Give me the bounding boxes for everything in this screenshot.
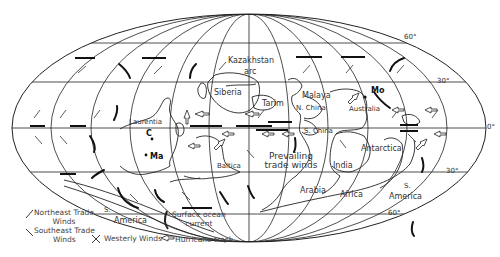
lat-label-60s: 60°	[388, 210, 400, 217]
region-india: India	[333, 162, 353, 170]
region-s-america-east-s: S.	[404, 183, 411, 190]
legend-southeast-trade: Southeast Trade Winds	[34, 227, 95, 244]
region-n-china: N. China	[296, 105, 326, 112]
prevailing-line2: trade winds	[256, 161, 326, 170]
region-tarim: Tarim	[262, 100, 284, 108]
paleogeographic-map: 60° 30° 0° 30° 60° Kazakhstan arc Siberi…	[0, 0, 500, 257]
lat-label-30s: 30°	[446, 168, 458, 175]
region-s-china: S. China	[304, 128, 333, 135]
region-africa: Africa	[340, 191, 363, 199]
legend-hurricane: Hurricane track	[175, 236, 233, 245]
region-australia: Australia	[349, 106, 380, 113]
region-laurentia: Laurentia	[129, 119, 162, 126]
lat-label-60n: 60°	[404, 34, 416, 41]
region-baltica: Baltica	[217, 163, 241, 170]
lat-label-0: 0°	[487, 124, 495, 131]
region-s-america-west: America	[114, 217, 147, 225]
legend-surface-current: Surface ocean current	[172, 211, 226, 228]
region-antarctica: Antarctica	[361, 145, 402, 153]
marker-ma: Ma	[150, 153, 163, 161]
legend-westerly: Westerly Winds	[104, 235, 162, 244]
marker-c: C	[146, 130, 152, 138]
region-malaya: Malaya	[302, 92, 331, 100]
trade-wind-arrows	[34, 62, 438, 202]
region-siberia: Siberia	[214, 89, 242, 97]
marker-mo: Mo	[371, 87, 384, 95]
region-arabia: Arabia	[300, 187, 326, 195]
region-s-america-west-s: S.	[104, 207, 111, 214]
prevailing-trade-winds-label: Prevailing trade winds	[256, 152, 326, 170]
legend-northeast-trade: Northeast Trade Winds	[34, 209, 94, 226]
region-kazakhstan: Kazakhstan	[228, 57, 274, 65]
lat-label-30n: 30°	[437, 78, 449, 85]
legend-southeast-trade-icon	[26, 229, 33, 236]
region-kazakhstan-arc: arc	[244, 68, 256, 76]
region-s-america-east: America	[389, 193, 422, 201]
legend-northeast-trade-icon	[26, 210, 33, 218]
westerly-wind-bars	[30, 57, 418, 208]
